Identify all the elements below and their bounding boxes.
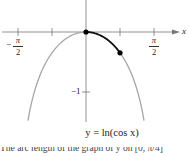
tick-label-pi-over-2: π 2 <box>149 36 159 56</box>
x-axis-label: x <box>182 27 186 36</box>
x-axis-arrow-icon <box>172 30 180 35</box>
curve-arc-segment <box>86 32 120 53</box>
neg-sign: − <box>6 40 11 49</box>
point-origin <box>83 29 88 34</box>
point-pi-over-4 <box>117 50 122 55</box>
tick-label-neg-pi-over-2: π 2 <box>13 36 23 56</box>
function-equation-label: y = ln(cos x) <box>82 124 142 141</box>
y-tick-label-minus-one: −1 <box>71 87 81 96</box>
